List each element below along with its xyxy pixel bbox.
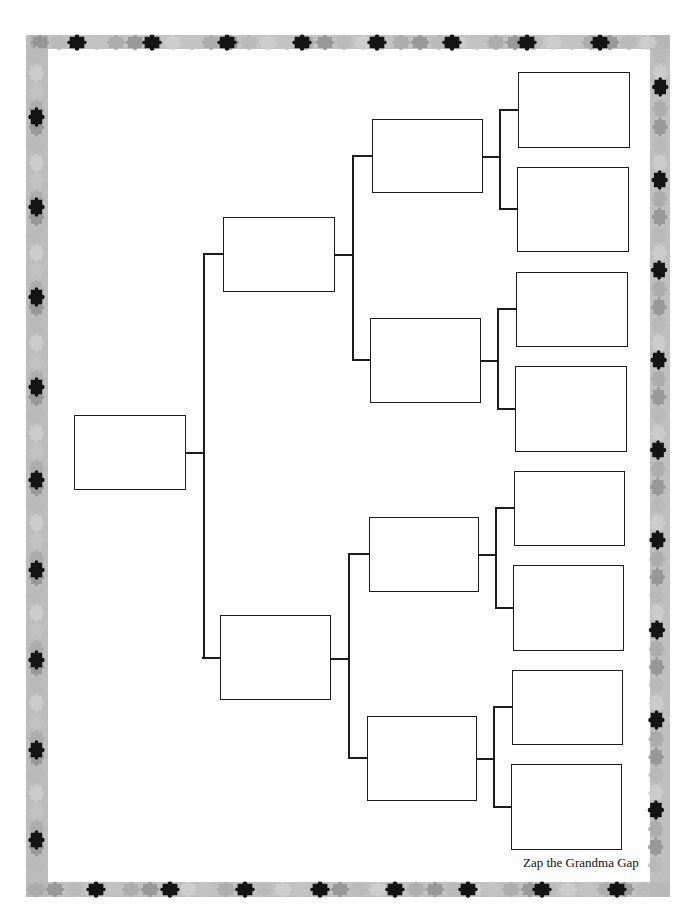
puzzle-piece-icon — [651, 406, 667, 425]
family-tree-page: Zap the Grandma Gap — [0, 0, 698, 924]
gen1-self-box[interactable] — [74, 415, 186, 490]
puzzle-piece-icon — [29, 856, 45, 875]
puzzle-piece-icon — [29, 784, 45, 803]
puzzle-piece-icon — [29, 802, 45, 821]
puzzle-piece-icon — [652, 154, 668, 173]
puzzle-piece-icon — [483, 882, 502, 898]
puzzle-piece-icon — [331, 882, 350, 898]
puzzle-piece-icon — [639, 35, 658, 51]
puzzle-piece-icon — [27, 882, 46, 898]
gen3-grandparent-3-box[interactable] — [369, 517, 479, 592]
puzzle-piece-icon — [650, 514, 666, 533]
puzzle-piece-icon — [369, 882, 388, 898]
puzzle-piece-icon — [255, 882, 274, 898]
puzzle-piece-icon — [458, 881, 477, 897]
puzzle-piece-icon — [652, 170, 668, 189]
gen3-grandparent-1-box[interactable] — [372, 119, 483, 193]
connector-line — [478, 554, 496, 556]
puzzle-piece-icon — [29, 46, 45, 65]
gen4-great-grandparent-3-box[interactable] — [516, 272, 628, 347]
puzzle-piece-icon — [649, 694, 665, 713]
puzzle-piece-icon — [29, 64, 45, 83]
puzzle-piece-icon — [29, 226, 45, 245]
puzzle-piece-icon — [29, 82, 45, 101]
puzzle-piece-icon — [29, 424, 45, 443]
puzzle-piece-icon — [316, 35, 335, 51]
puzzle-piece-icon — [29, 154, 45, 173]
puzzle-piece-icon — [28, 650, 44, 669]
connector-line — [480, 360, 498, 362]
puzzle-piece-icon — [648, 820, 664, 839]
puzzle-piece-icon — [649, 658, 665, 677]
puzzle-piece-icon — [650, 478, 666, 497]
connector-line — [499, 109, 518, 111]
puzzle-piece-icon — [544, 35, 563, 51]
connector-line — [497, 408, 515, 410]
puzzle-piece-icon — [88, 35, 107, 51]
footer-caption: Zap the Grandma Gap — [523, 855, 639, 871]
puzzle-piece-icon — [652, 118, 668, 137]
puzzle-piece-icon — [217, 34, 236, 50]
gen3-grandparent-4-box[interactable] — [367, 716, 477, 801]
puzzle-piece-icon — [648, 800, 664, 819]
puzzle-piece-icon — [28, 377, 44, 396]
puzzle-piece-icon — [86, 881, 105, 897]
puzzle-piece-icon — [29, 604, 45, 623]
puzzle-piece-icon — [620, 35, 639, 51]
puzzle-piece-icon — [578, 882, 597, 898]
puzzle-piece-icon — [442, 34, 461, 50]
puzzle-piece-icon — [648, 784, 664, 803]
gen2-parent-2-box[interactable] — [220, 615, 331, 700]
puzzle-piece-icon — [28, 287, 44, 306]
puzzle-piece-icon — [65, 882, 84, 898]
puzzle-piece-icon — [651, 388, 667, 407]
puzzle-piece-icon — [652, 100, 668, 119]
puzzle-piece-icon — [29, 766, 45, 785]
puzzle-piece-icon — [142, 34, 161, 50]
puzzle-piece-icon — [652, 244, 668, 263]
connector-line — [348, 553, 350, 758]
puzzle-piece-icon — [29, 136, 45, 155]
puzzle-piece-icon — [649, 530, 665, 549]
puzzle-piece-icon — [649, 640, 665, 659]
puzzle-piece-icon — [650, 568, 666, 587]
gen4-great-grandparent-1-box[interactable] — [518, 72, 630, 148]
connector-line — [495, 507, 514, 509]
puzzle-piece-icon — [198, 882, 217, 898]
puzzle-piece-icon — [648, 856, 664, 875]
puzzle-piece-icon — [293, 882, 312, 898]
puzzle-piece-icon — [310, 881, 329, 897]
gen4-great-grandparent-5-box[interactable] — [514, 471, 625, 546]
connector-line — [497, 308, 499, 409]
puzzle-piece-icon — [350, 882, 369, 898]
puzzle-piece-icon — [29, 676, 45, 695]
puzzle-piece-icon — [648, 838, 664, 857]
gen4-great-grandparent-8-box[interactable] — [511, 764, 622, 850]
puzzle-piece-icon — [652, 136, 668, 155]
puzzle-piece-icon — [650, 460, 666, 479]
gen4-great-grandparent-7-box[interactable] — [512, 670, 623, 745]
gen4-great-grandparent-2-box[interactable] — [517, 167, 629, 252]
puzzle-piece-icon — [259, 35, 278, 51]
puzzle-piece-icon — [28, 197, 44, 216]
puzzle-piece-icon — [650, 350, 666, 369]
puzzle-piece-icon — [651, 316, 667, 335]
puzzle-piece-icon — [50, 35, 69, 51]
puzzle-piece-icon — [107, 35, 126, 51]
puzzle-piece-icon — [502, 882, 521, 898]
puzzle-piece-icon — [367, 34, 386, 50]
connector-line — [495, 507, 497, 608]
gen3-grandparent-2-box[interactable] — [370, 318, 481, 403]
puzzle-piece-icon — [29, 622, 45, 641]
puzzle-piece-icon — [648, 766, 664, 785]
puzzle-piece-icon — [29, 172, 45, 191]
gen2-parent-1-box[interactable] — [223, 217, 335, 292]
gen4-great-grandparent-4-box[interactable] — [515, 366, 627, 452]
gen4-great-grandparent-6-box[interactable] — [513, 565, 624, 651]
puzzle-piece-icon — [651, 334, 667, 353]
puzzle-piece-icon — [28, 560, 44, 579]
connector-line — [352, 155, 354, 360]
puzzle-piece-icon — [653, 46, 669, 65]
puzzle-piece-icon — [335, 35, 354, 51]
puzzle-piece-icon — [649, 748, 665, 767]
